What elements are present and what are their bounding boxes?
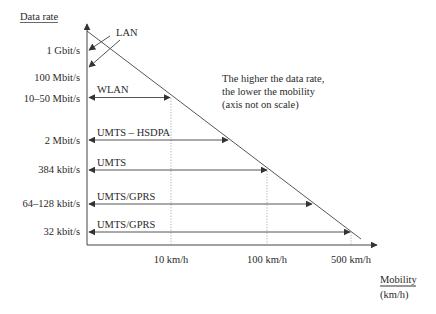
y-tick-2mbit: 2 Mbit/s — [45, 135, 80, 146]
data-rate-mobility-diagram: Data rate LAN 1 Gbit/s 100 Mbit/s 10–50 … — [0, 0, 436, 314]
tech-label-umts: UMTS — [97, 157, 126, 168]
note-line-1: The higher the data rate, — [222, 73, 324, 84]
tech-label-hsdpa: UMTS – HSDPA — [97, 127, 171, 138]
y-tick-384kbit: 384 kbit/s — [38, 164, 80, 175]
x-tick-10kmh: 10 km/h — [154, 254, 189, 265]
y-tick-100mbit: 100 Mbit/s — [34, 72, 80, 83]
y-tick-10-50mbit: 10–50 Mbit/s — [24, 93, 80, 104]
y-tick-64-128kbit: 64–128 kbit/s — [23, 198, 80, 209]
tech-label-gprs-2: UMTS/GPRS — [97, 219, 156, 230]
lan-arrow-1gbit — [89, 36, 110, 50]
x-axis-unit: (km/h) — [380, 289, 409, 301]
tech-label-wlan: WLAN — [97, 84, 129, 95]
y-tick-32kbit: 32 kbit/s — [44, 226, 80, 237]
x-tick-500kmh: 500 km/h — [331, 254, 372, 265]
tech-label-gprs-1: UMTS/GPRS — [97, 191, 156, 202]
x-tick-100kmh: 100 km/h — [247, 254, 288, 265]
x-axis-label: Mobility — [380, 274, 418, 285]
lan-label: LAN — [116, 27, 138, 38]
y-axis-label: Data rate — [20, 11, 59, 22]
note-line-3: (axis not on scale) — [222, 99, 299, 111]
note-line-2: the lower the mobility — [222, 86, 316, 97]
y-tick-1gbit: 1 Gbit/s — [46, 45, 80, 56]
